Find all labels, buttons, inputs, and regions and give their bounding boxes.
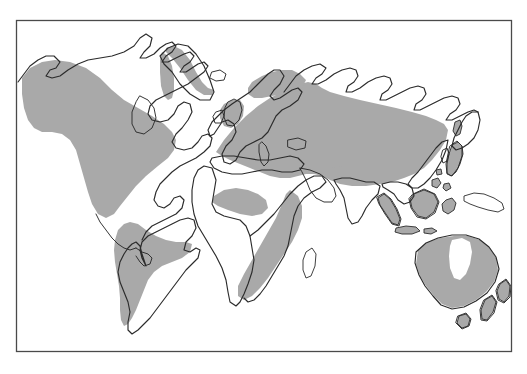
world-distribution-map	[0, 0, 527, 374]
map-canvas	[0, 0, 527, 374]
range-java	[395, 226, 420, 234]
range-philippines-c	[436, 169, 442, 175]
